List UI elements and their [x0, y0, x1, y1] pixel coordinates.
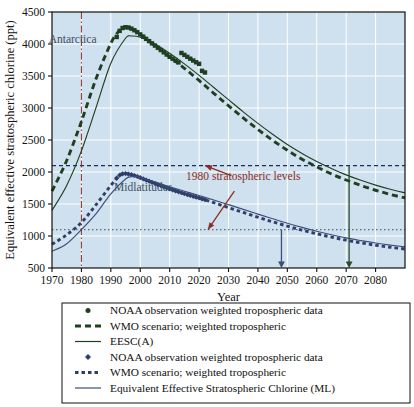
- data-marker: [197, 62, 201, 66]
- data-marker: [203, 70, 207, 74]
- chart-svg: 5001000150020002500300035004000450019701…: [0, 0, 414, 407]
- antarctica-label: Antarctica: [49, 33, 97, 45]
- chart-figure: 5001000150020002500300035004000450019701…: [0, 0, 414, 407]
- 1980-levels-label: 1980 stratospheric levels: [186, 170, 301, 183]
- y-tick-label: 3000: [22, 102, 45, 114]
- legend-item-label: WMO scenario; weighted tropospheric: [110, 320, 286, 332]
- x-tick-label: 2010: [158, 274, 181, 286]
- y-tick-label: 4500: [22, 6, 45, 18]
- x-tick-label: 2020: [188, 274, 211, 286]
- x-tick-label: 2050: [276, 274, 299, 286]
- legend-item-label: NOAA observation weighted tropospheric d…: [110, 304, 323, 316]
- y-axis-title: Equivalent effective stratospheric chlor…: [3, 20, 17, 259]
- y-tick-label: 4000: [22, 38, 45, 50]
- y-tick-label: 1500: [22, 198, 45, 210]
- x-tick-label: 2070: [335, 274, 358, 286]
- x-axis-title: Year: [217, 290, 241, 304]
- x-tick-label: 1980: [70, 274, 93, 286]
- midlatitudes-label: Midlatitudes: [114, 181, 173, 193]
- y-tick-label: 500: [28, 262, 46, 274]
- legend-item-label: Equivalent Effective Stratospheric Chlor…: [110, 382, 335, 395]
- x-tick-label: 2080: [364, 274, 387, 286]
- y-tick-label: 3500: [22, 70, 45, 82]
- legend-item[interactable]: NOAA observation weighted tropospheric d…: [86, 304, 323, 316]
- x-tick-label: 2000: [129, 274, 152, 286]
- y-tick-label: 1000: [22, 230, 45, 242]
- legend: NOAA observation weighted tropospheric d…: [62, 303, 410, 403]
- x-tick-label: 2060: [305, 274, 328, 286]
- legend-item-label: NOAA observation weighted tropospheric d…: [110, 351, 323, 363]
- y-tick-label: 2500: [22, 134, 45, 146]
- x-tick-label: 2030: [217, 274, 240, 286]
- x-tick-label: 1990: [99, 274, 122, 286]
- legend-item[interactable]: Equivalent Effective Stratospheric Chlor…: [75, 382, 335, 395]
- x-tick-label: 1970: [41, 274, 64, 286]
- legend-item[interactable]: NOAA observation weighted tropospheric d…: [85, 351, 323, 363]
- legend-item-label: EESC(A): [110, 335, 154, 348]
- x-tick-label: 2040: [246, 274, 269, 286]
- data-marker: [115, 35, 119, 39]
- y-tick-label: 2000: [22, 166, 45, 178]
- legend-dot-icon: [86, 308, 91, 313]
- legend-item-label: WMO scenario; weighted tropospheric: [110, 366, 286, 378]
